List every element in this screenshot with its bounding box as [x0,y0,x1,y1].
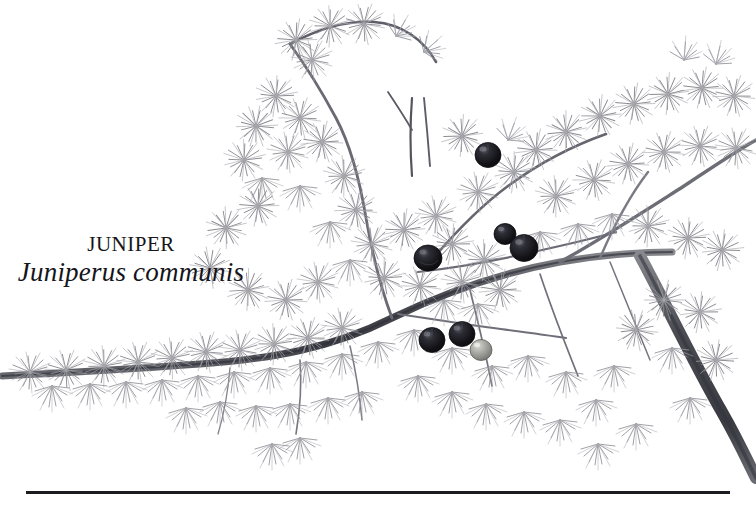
berry-mid-right [510,235,538,262]
berry-low-mid [449,321,475,347]
botanical-plate: JUNIPER Juniperus communis [0,0,756,518]
berry-low-right-unripe [470,340,492,361]
berry-fork [414,245,442,271]
berry-upper [475,143,501,168]
species-caption: JUNIPER Juniperus communis [0,234,262,286]
common-name: JUNIPER [0,234,262,255]
latin-name: Juniperus communis [0,259,262,286]
baseline-rule [26,491,730,494]
berry-low-left [419,327,445,353]
